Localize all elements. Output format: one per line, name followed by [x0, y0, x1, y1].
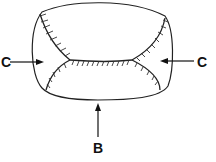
cushion-outline — [32, 3, 172, 100]
label-left: C — [1, 54, 11, 70]
bottom-arrow — [95, 103, 101, 137]
seam-lines — [40, 14, 165, 90]
stitch-marks — [40, 14, 168, 88]
label-right: C — [197, 54, 207, 70]
cushion-diagram: C C B — [0, 0, 216, 162]
label-bottom: B — [93, 140, 103, 156]
right-arrow — [160, 58, 194, 64]
left-arrow — [10, 59, 44, 65]
